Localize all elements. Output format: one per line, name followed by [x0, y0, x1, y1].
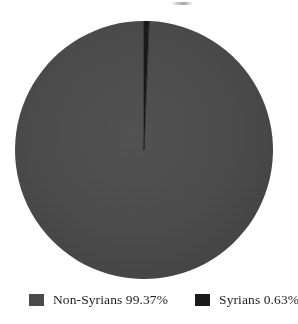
legend-swatch-syrians	[195, 294, 210, 306]
legend-label-syrians: Syrians 0.63%	[219, 293, 298, 307]
scan-artifact	[171, 2, 193, 5]
legend-item-syrians[interactable]: Syrians 0.63%	[195, 293, 298, 307]
legend-item-non-syrians[interactable]: Non-Syrians 99.37%	[29, 293, 168, 307]
pie-plot-area	[15, 21, 273, 279]
pie-svg	[15, 21, 273, 279]
chart-legend: Non-Syrians 99.37% Syrians 0.63%	[0, 288, 298, 312]
legend-label-non-syrians: Non-Syrians 99.37%	[53, 293, 168, 307]
pie-chart-figure: Non-Syrians 99.37% Syrians 0.63%	[0, 0, 298, 324]
legend-swatch-non-syrians	[29, 294, 44, 306]
